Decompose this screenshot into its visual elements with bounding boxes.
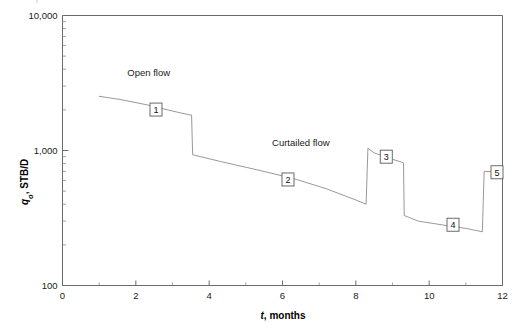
flow-period-marker-2: 2 <box>282 173 294 186</box>
y-tick-label-1000: 1,000 <box>34 145 58 156</box>
x-tick-label-0: 0 <box>60 290 65 301</box>
x-tick-label-2: 2 <box>133 290 138 301</box>
annotation-open-flow: Open flow <box>127 67 170 78</box>
marker-label-1: 1 <box>153 105 158 115</box>
y-axis-title-units: , STB/D <box>19 159 30 195</box>
chart-background <box>0 0 525 326</box>
x-tick-label-4: 4 <box>207 290 212 301</box>
flow-period-marker-3: 3 <box>380 150 392 163</box>
x-tick-label-6: 6 <box>280 290 285 301</box>
marker-label-2: 2 <box>285 175 290 185</box>
marker-label-3: 3 <box>384 152 389 162</box>
x-axis-title: t, months <box>260 310 305 321</box>
flow-period-marker-1: 1 <box>150 103 162 116</box>
x-tick-label-8: 8 <box>353 290 358 301</box>
flow-period-marker-4: 4 <box>447 218 459 231</box>
marker-label-5: 5 <box>494 168 499 178</box>
production-decline-chart: 1001,00010,000 024681012 Open flowCurtai… <box>0 0 525 326</box>
marker-label-4: 4 <box>450 220 455 230</box>
x-tick-label-12: 12 <box>497 290 508 301</box>
flow-period-marker-5: 5 <box>491 166 503 179</box>
top-edge-artifact <box>36 0 38 3</box>
x-axis-title-units: , months <box>264 310 306 321</box>
y-tick-label-10000: 10,000 <box>28 10 57 21</box>
y-tick-label-100: 100 <box>42 280 58 291</box>
x-tick-label-10: 10 <box>424 290 435 301</box>
chart-canvas: 1001,00010,000 024681012 Open flowCurtai… <box>0 0 525 326</box>
annotation-curtailed-flow: Curtailed flow <box>272 137 330 148</box>
